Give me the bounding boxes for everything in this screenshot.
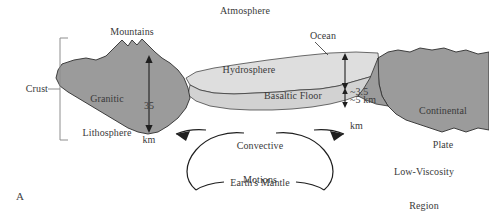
continental-plate-line1: Continental	[405, 105, 481, 116]
low-viscosity-region-label: Low-Viscosity Region	[378, 144, 470, 211]
ocean-leader-line	[315, 42, 328, 55]
crust-thickness-unit: km	[136, 134, 162, 145]
convective-motions-label: Convective Motions	[218, 118, 302, 208]
atmosphere-label: Atmosphere	[205, 5, 285, 16]
low-viscosity-line2: Region	[378, 200, 470, 211]
basaltic-floor-label: Basaltic Floor	[253, 90, 333, 101]
basalt-thickness-label: ~5 km	[350, 94, 392, 105]
crust-thickness-label: 35 km	[136, 78, 162, 168]
low-viscosity-line1: Low-Viscosity	[378, 166, 470, 177]
mountains-label: Mountains	[97, 26, 167, 37]
earths-mantle-label: Earth's Mantle	[221, 177, 299, 188]
convection-arrow-left-head	[176, 131, 190, 141]
geological-cross-section-figure: Atmosphere Mountains Ocean Crust Graniti…	[0, 0, 489, 211]
basalt-thickness-arrow-head-bottom	[342, 102, 348, 108]
convection-arrow-right-head	[330, 131, 344, 141]
crust-thickness-value: 35	[136, 100, 162, 111]
convective-motions-line1: Convective	[218, 140, 302, 151]
ocean-label: Ocean	[301, 30, 345, 41]
ocean-depth-label: ~3.5 km	[350, 64, 382, 154]
panel-letter: A	[16, 190, 24, 202]
crust-label: Crust	[10, 83, 48, 94]
hydrosphere-label: Hydrosphere	[208, 64, 290, 75]
ocean-depth-unit: km	[350, 120, 382, 131]
